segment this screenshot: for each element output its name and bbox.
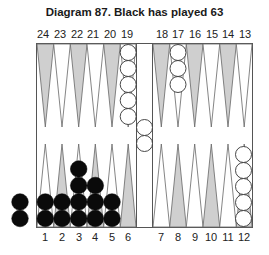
white-checker — [236, 163, 252, 179]
black-checker — [37, 210, 54, 227]
point-label-12: 12 — [235, 231, 253, 243]
white-checkers-point-12 — [236, 147, 252, 227]
black-checker — [70, 177, 87, 194]
point-label-7: 7 — [152, 231, 170, 243]
white-checker — [170, 45, 186, 61]
backgammon-board — [0, 0, 269, 255]
white-checker — [120, 109, 136, 125]
white-checker — [120, 45, 136, 61]
black-checker — [104, 210, 121, 227]
white-checker — [120, 93, 136, 109]
black-checker — [87, 177, 104, 194]
point-label-6: 6 — [119, 231, 137, 243]
white-checker — [236, 211, 252, 227]
black-checker — [87, 210, 104, 227]
black-checker-off — [12, 194, 29, 211]
black-checker — [87, 194, 104, 211]
point-label-8: 8 — [169, 231, 187, 243]
white-checker — [120, 77, 136, 93]
white-checker — [170, 61, 186, 77]
white-checkers-point-19 — [120, 45, 136, 125]
black-checker — [70, 161, 87, 178]
white-checker — [236, 147, 252, 163]
black-checker — [54, 210, 71, 227]
black-checker — [70, 210, 87, 227]
black-checker — [70, 194, 87, 211]
point-label-10: 10 — [202, 231, 220, 243]
white-checker — [120, 61, 136, 77]
point-label-2: 2 — [53, 231, 71, 243]
white-checker — [170, 77, 186, 93]
white-checker — [236, 179, 252, 195]
white-checkers-point-17 — [170, 45, 186, 93]
black-checker — [104, 194, 121, 211]
white-checker — [236, 195, 252, 211]
point-label-4: 4 — [86, 231, 104, 243]
black-checker — [54, 194, 71, 211]
white-checker — [137, 120, 153, 136]
point-label-1: 1 — [36, 231, 54, 243]
black-checker — [37, 194, 54, 211]
black-checker-off — [12, 210, 29, 227]
white-checker — [137, 136, 153, 152]
